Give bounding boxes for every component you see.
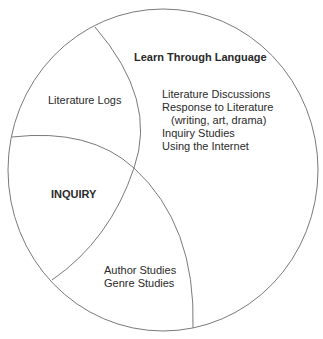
region-title-inquiry: INQUIRY	[51, 188, 96, 201]
region-title-learn-through-language: Learn Through Language	[134, 51, 267, 64]
divider-arc-left-to-bottom	[12, 135, 193, 328]
region-label-literature-logs: Literature Logs	[48, 94, 121, 107]
list-item: Response to Literature	[162, 101, 273, 114]
list-item: Inquiry Studies	[162, 127, 273, 140]
list-item: Author Studies	[104, 264, 176, 277]
list-item: Literature Discussions	[162, 88, 273, 101]
bottom-region-list: Author Studies Genre Studies	[104, 264, 176, 290]
list-item: Using the Internet	[162, 140, 273, 153]
divider-arc-top-to-lower-left	[52, 27, 141, 280]
learn-through-language-list: Literature Discussions Response to Liter…	[162, 88, 273, 153]
list-item: Genre Studies	[104, 277, 176, 290]
list-item: (writing, art, drama)	[162, 114, 273, 127]
